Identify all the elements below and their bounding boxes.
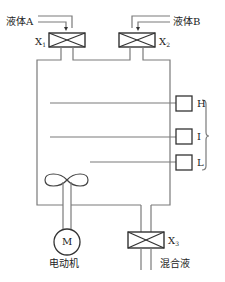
valve-x2 <box>119 33 155 47</box>
sensor-h-label: H <box>197 99 206 109</box>
arrow-b-icon <box>136 27 140 31</box>
motor-label: 电动机 <box>49 259 79 269</box>
sensor-i-box <box>176 129 192 144</box>
valve-x3 <box>128 232 164 248</box>
tank-wall <box>37 47 63 205</box>
valve-x1-label: X1 <box>35 37 46 48</box>
liquid-a-label: 液体A <box>6 17 33 27</box>
sensor-l-label: L <box>197 158 204 168</box>
sensor-i-label: I <box>197 132 201 142</box>
sensor-h-box <box>176 96 192 111</box>
arrow-a-icon <box>64 27 68 31</box>
motor-symbol: M <box>62 237 72 247</box>
sensor-l-box <box>176 155 192 170</box>
valve-x3-label: X3 <box>168 236 179 247</box>
feed-pipe-a-inner <box>38 22 66 28</box>
valve-x1 <box>49 33 85 47</box>
mixing-tank-diagram <box>0 0 225 282</box>
liquid-b-label: 液体B <box>173 17 200 27</box>
feed-pipe-b-inner <box>138 22 170 28</box>
valve-x2-label: X2 <box>159 37 170 48</box>
mixer-blades <box>45 174 88 186</box>
mixture-label: 混合液 <box>160 259 190 269</box>
